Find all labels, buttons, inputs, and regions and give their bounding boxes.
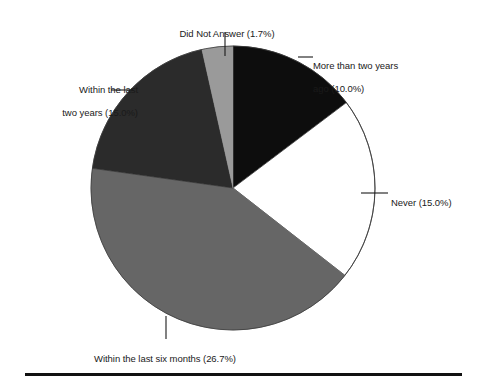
pie-label-more-than-two-years-line1: More than two years [313, 60, 463, 72]
pie-label-within-last-two-years-line1: Within the last [8, 84, 138, 96]
pie-label-within-last-six-months-text: Within the last six months (26.7%) [94, 353, 236, 364]
pie-label-never: Never (15.0%) [391, 185, 481, 208]
pie-label-did-not-answer: Did Not Answer (1.7%) [157, 16, 297, 39]
pie-label-within-last-two-years-line2: two years (15.0%) [8, 107, 138, 119]
pie-label-within-last-two-years: Within the last two years (15.0%) [8, 72, 138, 130]
pie-chart: Did Not Answer (1.7%) More than two year… [0, 0, 486, 382]
pie-label-within-last-six-months: Within the last six months (26.7%) [60, 341, 270, 364]
pie-label-never-text: Never (15.0%) [391, 197, 452, 208]
pie-label-more-than-two-years-line2: ago (10.0%) [313, 83, 463, 95]
footer-divider [25, 373, 462, 376]
pie-label-did-not-answer-text: Did Not Answer (1.7%) [179, 28, 274, 39]
pie-label-more-than-two-years: More than two years ago (10.0%) [313, 48, 463, 106]
